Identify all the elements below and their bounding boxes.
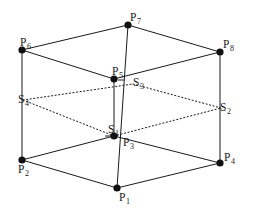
vertex-label-p8: P8 <box>223 39 233 51</box>
cube-diagram-canvas <box>0 0 257 212</box>
label-base-p5: P <box>112 65 118 77</box>
label-subscript-p6: 6 <box>27 42 31 51</box>
vertex-label-p7: P7 <box>130 12 140 24</box>
label-subscript-s1: 1 <box>115 129 119 138</box>
label-base-p4: P <box>224 151 230 163</box>
vertex-label-s1: S1 <box>108 124 118 136</box>
cube-diagram-figure: P1P2P3P4P5P6P7P8S1S2S3S4 <box>0 0 257 212</box>
vertex-label-p6: P6 <box>20 37 30 49</box>
edge-mid-plane-left-front <box>23 100 114 136</box>
label-base-p1: P <box>119 191 125 203</box>
label-subscript-p2: 2 <box>25 169 29 178</box>
vertex-label-s2: S2 <box>220 102 230 114</box>
label-subscript-p7: 7 <box>137 17 141 26</box>
vertex-dot-p4 <box>216 159 223 166</box>
vertex-label-p3: P3 <box>123 137 133 149</box>
edge-mid-plane-right-front <box>114 108 221 136</box>
label-subscript-p8: 8 <box>230 44 234 53</box>
label-subscript-s3: 3 <box>140 82 144 91</box>
cube-vertex-dots <box>18 21 223 191</box>
vertex-label-s4: S4 <box>18 94 28 106</box>
label-base-p3: P <box>123 136 129 148</box>
vertex-label-s3: S3 <box>133 77 143 89</box>
label-subscript-p1: 1 <box>126 197 130 206</box>
edge-vertical-back <box>117 25 128 188</box>
vertex-label-p4: P4 <box>224 152 234 164</box>
label-subscript-p3: 3 <box>130 142 134 151</box>
edge-mid-plane-right-back <box>133 84 221 108</box>
edge-bottom-back-left <box>22 136 114 160</box>
vertex-label-p5: P5 <box>112 66 122 78</box>
cube-solid-edges <box>22 25 220 188</box>
vertex-label-p1: P1 <box>119 192 129 204</box>
edge-top-front-left <box>22 50 114 79</box>
edge-top-back-left <box>22 25 128 50</box>
edge-mid-plane-left-back <box>23 84 133 100</box>
label-base-p8: P <box>223 38 229 50</box>
vertex-label-p2: P2 <box>18 164 28 176</box>
edge-top-front-right <box>114 52 220 79</box>
label-base-s3: S <box>133 76 139 88</box>
edge-top-back-right <box>128 25 220 52</box>
label-base-p2: P <box>18 163 24 175</box>
edge-bottom-front-left <box>22 160 117 188</box>
label-base-s1: S <box>108 123 114 135</box>
label-subscript-p4: 4 <box>231 157 235 166</box>
label-base-s4: S <box>18 93 24 105</box>
label-subscript-p5: 5 <box>119 71 123 80</box>
label-subscript-s2: 2 <box>227 107 231 116</box>
label-base-p6: P <box>20 36 26 48</box>
label-base-s2: S <box>220 101 226 113</box>
label-subscript-s4: 4 <box>25 99 29 108</box>
label-base-p7: P <box>130 11 136 23</box>
edge-bottom-front-right <box>117 163 220 188</box>
